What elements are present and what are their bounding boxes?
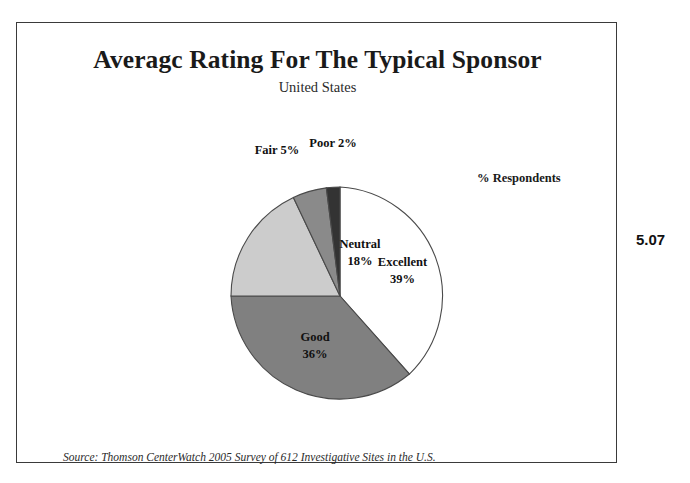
pie-label-good-text: Good <box>300 330 329 344</box>
pie-label-fair-value: 5% <box>281 143 300 157</box>
units-label: % Respondents <box>477 171 561 186</box>
chart-frame: Averagc Rating For The Typical Sponsor U… <box>16 22 617 463</box>
pie-label-good: Good 36% <box>270 329 360 363</box>
page-title: Averagc Rating For The Typical Sponsor <box>17 45 618 75</box>
pie-chart: Neutral 18% Good 36% Excellent 39% Fair … <box>215 171 465 421</box>
pie-label-excellent-text: Excellent <box>378 255 427 269</box>
pie-label-fair-text: Fair <box>255 143 278 157</box>
chart-subtitle: United States <box>17 79 618 96</box>
pie-label-poor: Poor 2% <box>303 135 363 152</box>
pie-chart-svg <box>215 171 465 421</box>
figure-number: 5.07 <box>636 231 665 248</box>
pie-label-poor-value: 2% <box>338 136 357 150</box>
pie-label-good-value: 36% <box>270 346 360 363</box>
pie-label-excellent: Excellent 39% <box>355 254 450 288</box>
figure-root: Averagc Rating For The Typical Sponsor U… <box>0 0 690 483</box>
pie-label-fair: Fair 5% <box>247 142 307 159</box>
pie-label-excellent-value: 39% <box>355 271 450 288</box>
pie-label-neutral-text: Neutral <box>340 237 381 251</box>
source-note: Source: Thomson CenterWatch 2005 Survey … <box>63 451 436 463</box>
pie-label-poor-text: Poor <box>309 136 334 150</box>
